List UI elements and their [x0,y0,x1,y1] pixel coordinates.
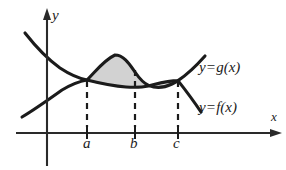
curve-label-f-op: = [206,99,216,115]
x-axis-arrowhead [270,129,282,137]
x-axis-label: x [271,110,277,123]
curve-label-f-lhs: y [199,99,206,115]
math-figure-area-between-curves: y x a b c y=g(x) y=f(x) [0,0,286,170]
curve-label-g-op: = [206,59,216,75]
curve-label-g-lhs: y [199,59,206,75]
y-axis-arrowhead [43,8,51,20]
y-axis-label: y [52,8,59,23]
tick-label-a: a [83,136,91,151]
tick-label-b: b [130,136,138,151]
curve-label-g-rhs: g(x) [216,59,240,75]
curve-label-f-rhs: f(x) [216,99,237,115]
tick-label-c: c [173,136,180,151]
curve-label-f: y=f(x) [199,100,237,115]
plot-canvas [0,0,286,170]
curve-label-g: y=g(x) [199,60,240,75]
